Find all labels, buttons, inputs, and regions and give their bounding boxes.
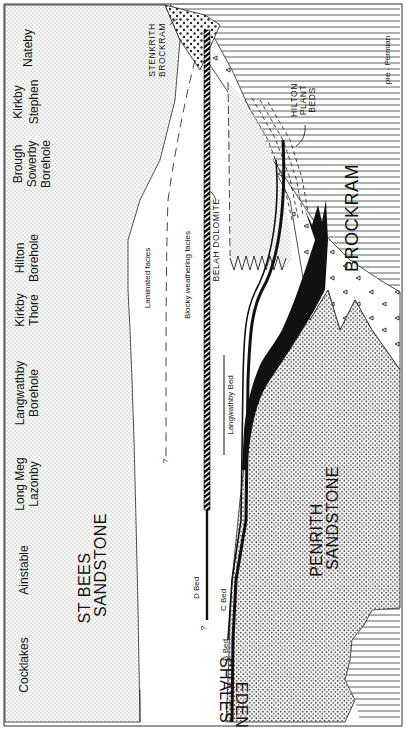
locality-kirkby-thore-2: Thore	[27, 294, 41, 326]
locality-hilton-2: Borehole	[27, 234, 41, 282]
locality-kirkby-thore-1: Kirkby	[13, 293, 27, 326]
stenkrith-label: STENKRITH BROCKRAM	[147, 23, 167, 77]
locality-langwathby-2: Borehole	[27, 369, 41, 417]
locality-long-meg-2: Lazonby	[27, 461, 41, 506]
belah-dolomite-label: BELAH DOLOMITE	[211, 198, 221, 281]
locality-ainstable: Ainstable	[17, 545, 31, 595]
facies-query: ?	[161, 458, 170, 463]
locality-brough-3: Borehole	[39, 140, 53, 188]
hilton-plant-beds-line-3: BEDS	[307, 87, 317, 113]
c-bed-label: C Bed	[219, 589, 228, 611]
stenkrith-line-2: BROCKRAM	[157, 23, 167, 77]
locality-brough-1: Brough	[11, 145, 25, 184]
stenkrith-line-1: STENKRITH	[147, 23, 157, 77]
brockram-label: BROCKRAM	[342, 164, 362, 272]
langwathby-bed-label: Langwathby Bed	[226, 375, 235, 435]
locality-cocklakes: Cocklakes	[17, 637, 31, 692]
laminated-facies-label: Laminated facies	[143, 248, 152, 308]
a-bed-label: A Bed	[263, 355, 272, 376]
cross-section-diagram: Nateby Kirkby Stephen Brough Sowerby Bor…	[0, 0, 407, 730]
penrith-line-2: SANDSTONE	[324, 466, 341, 570]
belah-dolomite-unit	[204, 30, 210, 510]
locality-kirkby-stephen-1: Kirkby	[11, 85, 25, 118]
locality-langwathby-1: Langwathby	[13, 361, 27, 426]
d-bed-label: D Bed	[192, 577, 201, 599]
pre-permian-label: pre - Permian	[383, 36, 392, 84]
eden-shales-line-2: SHALES	[217, 657, 234, 723]
locality-kirkby-stephen-2: Stephen	[27, 80, 41, 125]
penrith-line-1: PENRITH	[308, 503, 325, 577]
eden-shales-line-1: EDEN	[233, 682, 250, 728]
st-bees-line-1: ST BEES	[76, 553, 93, 624]
locality-nateby: Nateby	[21, 29, 35, 67]
blocky-facies-label: Blocky weathering facies	[183, 231, 192, 319]
locality-hilton-1: Hilton	[13, 243, 27, 274]
st-bees-line-2: SANDSTONE	[92, 513, 109, 617]
locality-long-meg-1: Long Meg	[13, 457, 27, 510]
locality-brough-2: Sowerby	[25, 141, 39, 188]
hilton-plant-beds-label: HILTON PLANT BEDS	[289, 83, 317, 117]
d-bed-query: ?	[199, 625, 208, 630]
